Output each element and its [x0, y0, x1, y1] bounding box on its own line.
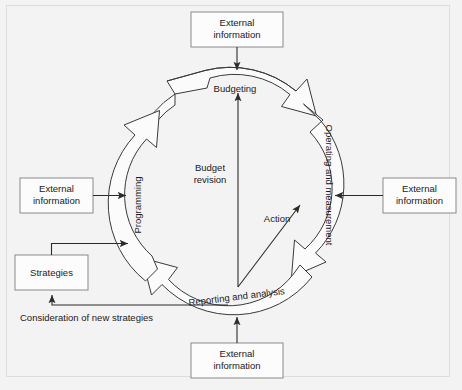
inner-flow-label-action: Action [264, 213, 290, 224]
external-information-left-label-line1: External [39, 183, 74, 194]
external-information-bottom-label-line1: External [220, 348, 255, 359]
management-control-cycle-diagram: Budgeting Operating and measurement Repo… [0, 0, 462, 390]
external-information-bottom-label-line2: information [214, 360, 261, 371]
cycle-stage-label-budgeting: Budgeting [214, 83, 257, 94]
feedback-label: Consideration of new strategies [20, 312, 153, 323]
external-information-top-label-line1: External [220, 17, 255, 28]
cycle-stage-label-operating-and-measurement: Operating and measurement [324, 125, 335, 246]
inner-flow-label-budget-revision-line1: Budget [195, 162, 225, 173]
external-information-top-label-line2: information [214, 29, 261, 40]
inner-flow-label-budget-revision-line2: revision [194, 174, 227, 185]
strategies-label: Strategies [30, 267, 73, 278]
external-information-right-label-line1: External [402, 183, 437, 194]
diagram-canvas: Budgeting Operating and measurement Repo… [0, 0, 462, 390]
external-information-left-label-line2: information [33, 195, 80, 206]
external-information-right-label-line2: information [396, 195, 443, 206]
cycle-stage-label-programming: Programming [132, 176, 143, 233]
